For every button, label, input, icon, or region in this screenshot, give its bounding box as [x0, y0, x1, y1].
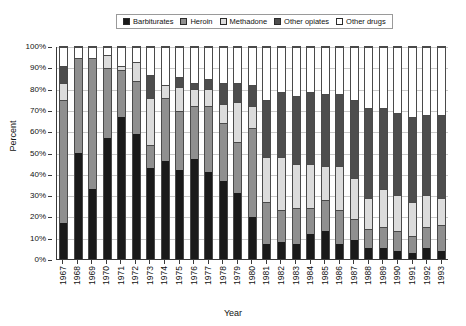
bar-segment	[307, 164, 314, 209]
y-tick-label: 30%	[30, 192, 46, 200]
x-tick-mark	[77, 260, 78, 264]
x-tick-mark	[120, 260, 121, 264]
x-tick-label: 1978	[218, 266, 227, 285]
x-tick: 1978	[218, 260, 227, 306]
y-tick-label: 100%	[26, 43, 46, 51]
bar-segment	[234, 193, 241, 259]
bar-segment	[205, 172, 212, 259]
bar-segment	[278, 157, 285, 210]
legend-item: Other drugs	[336, 18, 386, 26]
y-tick-mark	[48, 47, 52, 48]
bar-segment	[234, 142, 241, 193]
x-tick-label: 1971	[116, 266, 125, 285]
legend-item: Barbiturates	[123, 18, 173, 26]
bar-segment	[162, 85, 169, 98]
legend-item-label: Other drugs	[346, 18, 386, 26]
x-tick-label: 1970	[102, 266, 111, 285]
x-tick: 1983	[291, 260, 300, 306]
bar-segment	[176, 47, 183, 77]
x-tick: 1970	[102, 260, 111, 306]
bar-segment	[205, 79, 212, 90]
y-tick-label: 0%	[34, 256, 46, 264]
stacked-bar	[422, 46, 431, 259]
bar-segment	[147, 168, 154, 259]
bar-segment	[394, 47, 401, 113]
bar-segment	[234, 83, 241, 102]
y-tick-mark	[48, 239, 52, 240]
y-tick-mark	[48, 68, 52, 69]
stacked-bar	[306, 46, 315, 259]
bar-segment	[365, 198, 372, 230]
x-tick: 1992	[422, 260, 431, 306]
stacked-bar	[103, 46, 112, 259]
bar-segment	[365, 248, 372, 259]
bar-segment	[438, 47, 445, 115]
bar-segment	[423, 115, 430, 196]
bar-segment	[205, 89, 212, 106]
plot-area	[56, 47, 448, 260]
bar-segment	[75, 47, 82, 58]
bar-segment	[438, 251, 445, 259]
legend-item: Other opiates	[274, 18, 329, 26]
stacked-bar	[161, 46, 170, 259]
bar-segment	[336, 94, 343, 166]
x-tick-label: 1976	[189, 266, 198, 285]
bar-segment	[438, 115, 445, 198]
y-tick-label: 70%	[30, 107, 46, 115]
x-tick-mark	[266, 260, 267, 264]
bar-segment	[89, 58, 96, 189]
bar-segment	[220, 83, 227, 104]
bar-segment	[380, 189, 387, 227]
bar-segment	[322, 47, 329, 94]
bar-segment	[380, 227, 387, 248]
x-tick-mark	[280, 260, 281, 264]
y-tick-mark	[48, 175, 52, 176]
y-tick-label: 10%	[30, 235, 46, 243]
x-tick-label: 1985	[320, 266, 329, 285]
x-tick: 1975	[175, 260, 184, 306]
x-tick: 1967	[58, 260, 67, 306]
y-tick-mark	[48, 111, 52, 112]
bar-segment	[322, 231, 329, 259]
bar-segment	[147, 75, 154, 98]
x-tick: 1985	[320, 260, 329, 306]
bar-segment	[336, 244, 343, 259]
x-tick-label: 1981	[262, 266, 271, 285]
bar-segment	[191, 106, 198, 159]
bar-segment	[336, 47, 343, 94]
x-axis-title: Year	[0, 308, 466, 318]
legend-item: Methadone	[220, 18, 268, 26]
bar-segment	[394, 251, 401, 259]
bar-segment	[133, 62, 140, 81]
y-tick-label: 20%	[30, 213, 46, 221]
x-tick-label: 1972	[131, 266, 140, 285]
bar-segment	[147, 47, 154, 75]
stacked-bar	[88, 46, 97, 259]
x-tick-mark	[397, 260, 398, 264]
stacked-bar	[437, 46, 446, 259]
y-tick-mark	[48, 132, 52, 133]
x-tick: 1969	[87, 260, 96, 306]
x-tick-mark	[412, 260, 413, 264]
bar-segment	[118, 70, 125, 117]
legend-item-label: Methadone	[230, 18, 268, 26]
bar-segment	[104, 138, 111, 259]
stacked-bar	[233, 46, 242, 259]
bar-segment	[162, 47, 169, 85]
bar-segment	[104, 68, 111, 138]
stacked-bar	[74, 46, 83, 259]
x-tick: 1979	[233, 260, 242, 306]
bar-segment	[176, 111, 183, 170]
bar-segment	[205, 106, 212, 172]
x-tick-mark	[368, 260, 369, 264]
y-tick-label: 90%	[30, 64, 46, 72]
stacked-bar	[219, 46, 228, 259]
bar-segment	[394, 113, 401, 196]
bar-segment	[438, 225, 445, 250]
bar-segment	[133, 81, 140, 134]
x-tick-mark	[237, 260, 238, 264]
y-tick-label: 50%	[30, 150, 46, 158]
bar-segment	[409, 202, 416, 236]
bar-segment	[118, 117, 125, 259]
x-tick: 1986	[335, 260, 344, 306]
